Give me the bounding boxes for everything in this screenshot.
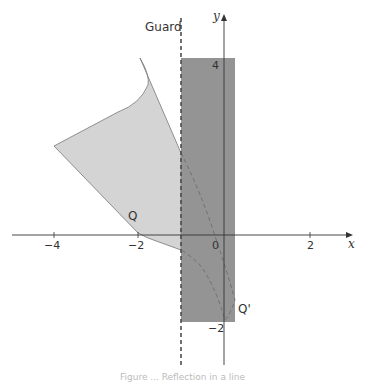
point-q-label: Q — [128, 210, 137, 222]
y-tick-label-neg2: −2 — [208, 323, 224, 334]
object-shape — [54, 58, 181, 250]
guard-label: Guard — [145, 21, 182, 33]
x-tick-label-neg4: −4 — [44, 240, 60, 251]
y-axis-arrow-icon — [221, 14, 227, 21]
x-tick-label-neg2: −2 — [128, 240, 144, 251]
shaded-rectangle — [181, 58, 235, 322]
x-tick-label-2: 2 — [307, 240, 314, 251]
x-axis-label: x — [348, 238, 355, 250]
x-tick-label-0: 0 — [212, 240, 219, 251]
figure-caption: Figure ... Reflection in a line — [0, 372, 365, 382]
point-q-prime-label: Q' — [238, 303, 251, 315]
y-tick-label-4: 4 — [212, 60, 219, 71]
y-axis-label: y — [213, 10, 220, 22]
